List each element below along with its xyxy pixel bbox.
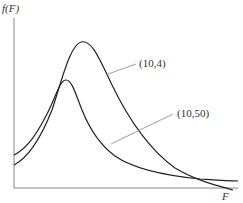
curve-label-10-50: (10,50) [177,107,209,119]
leader-10-50 [111,114,173,144]
curve-label-10-4: (10,4) [139,57,166,69]
plot-canvas [0,0,243,203]
y-axis-label: f(F) [2,2,19,14]
x-axis-label: F [222,190,229,202]
f-distribution-diagram: f(F) F (10,4) (10,50) [0,0,243,203]
leader-10-4 [108,64,136,74]
curve-10-50 [14,80,238,181]
